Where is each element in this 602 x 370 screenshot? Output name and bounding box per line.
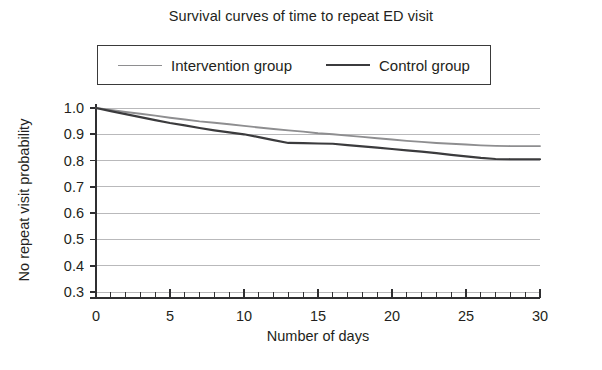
y-axis-tick-label: 0.7: [64, 179, 84, 195]
x-axis-tick-label: 10: [236, 308, 252, 324]
survival-chart-figure: Survival curves of time to repeat ED vis…: [0, 0, 602, 370]
x-axis-tick-label: 20: [384, 308, 400, 324]
y-axis-tick-label: 0.3: [64, 284, 84, 300]
plot-area: 0.30.40.50.60.70.80.91.0051015202530: [0, 0, 602, 370]
x-axis-tick-label: 15: [310, 308, 326, 324]
x-axis-tick-label: 25: [458, 308, 474, 324]
y-axis-tick-label: 0.9: [64, 126, 84, 142]
x-axis-tick-label: 0: [92, 308, 100, 324]
x-axis-tick-label: 30: [532, 308, 548, 324]
y-axis-tick-label: 0.8: [64, 153, 84, 169]
y-axis-tick-label: 1.0: [64, 100, 84, 116]
series-line-intervention: [96, 108, 540, 146]
y-axis-tick-label: 0.5: [64, 231, 84, 247]
x-axis-tick-label: 5: [166, 308, 174, 324]
y-axis-tick-label: 0.6: [64, 205, 84, 221]
y-axis-tick-label: 0.4: [64, 258, 84, 274]
